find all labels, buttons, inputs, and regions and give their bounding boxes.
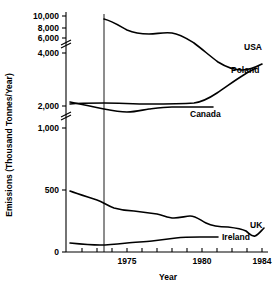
series-label-uk: UK xyxy=(250,220,263,230)
y-tick-label-500: 500 xyxy=(45,185,59,195)
y-tick-label-8000: 8,000 xyxy=(38,23,60,33)
y-tick-label-6000: 6,000 xyxy=(38,33,60,43)
series-label-usa: USA xyxy=(244,42,262,52)
x-tick-marks xyxy=(82,248,262,252)
y-tick-label-4000: 4,000 xyxy=(38,48,60,58)
y-tick-label-1000: 1,000 xyxy=(38,123,60,133)
y-tick-marks xyxy=(62,16,66,252)
series-line-poland xyxy=(70,68,256,104)
emissions-line-chart: Emissions (Thousand Tonnes/Year) 10,000 xyxy=(0,0,278,288)
y-tick-label-0: 0 xyxy=(54,247,59,257)
chart-canvas: Emissions (Thousand Tonnes/Year) 10,000 xyxy=(0,0,278,288)
y-tick-label-10000: 10,000 xyxy=(33,11,59,21)
series-line-ireland xyxy=(70,237,218,245)
series-line-uk xyxy=(70,191,264,236)
series-line-usa xyxy=(104,19,262,70)
y-tick-label-2000: 2,000 xyxy=(38,101,60,111)
series-label-ireland: Ireland xyxy=(222,232,250,242)
x-axis-title: Year xyxy=(159,272,178,282)
series-label-poland: Poland xyxy=(231,65,259,75)
y-axis-title: Emissions (Thousand Tonnes/Year) xyxy=(4,73,14,217)
x-tick-label-1980: 1980 xyxy=(193,256,212,266)
x-tick-label-1984: 1984 xyxy=(253,256,272,266)
x-tick-label-1975: 1975 xyxy=(118,256,137,266)
series-label-canada: Canada xyxy=(190,109,221,119)
